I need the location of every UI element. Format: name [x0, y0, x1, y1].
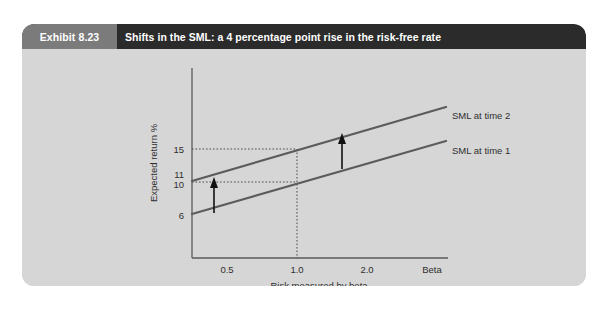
x-tick-label-0-5: 0.5 — [220, 264, 233, 275]
y-tick-label-15: 15 — [173, 144, 184, 155]
x-axis-title: Risk measured by beta — [270, 280, 368, 286]
y-tick-label-10: 10 — [173, 179, 184, 190]
sml-time-2-line — [192, 107, 446, 181]
series-label-sml-time-2: SML at time 2 — [452, 110, 510, 121]
x-axis-beta-label: Beta — [422, 264, 442, 275]
exhibit-number-label: Exhibit 8.23 — [40, 31, 100, 43]
exhibit-title: Shifts in the SML: a 4 percentage point … — [125, 24, 441, 49]
x-tick-label-1-0: 1.0 — [290, 264, 303, 275]
series-label-sml-time-1: SML at time 1 — [452, 145, 510, 156]
y-axis-title: Expected return % — [148, 123, 159, 202]
exhibit-number-tab: Exhibit 8.23 — [22, 24, 117, 49]
sml-time-1-line — [192, 141, 446, 214]
exhibit-card: Exhibit 8.23 Shifts in the SML: a 4 perc… — [22, 24, 586, 286]
exhibit-header: Exhibit 8.23 Shifts in the SML: a 4 perc… — [22, 24, 586, 49]
y-tick-label-6: 6 — [179, 210, 184, 221]
x-tick-label-2-0: 2.0 — [360, 264, 373, 275]
chart-body: 15 11 10 6 0.5 1.0 2.0 Beta SML at time … — [22, 49, 586, 286]
sml-chart: 15 11 10 6 0.5 1.0 2.0 Beta SML at time … — [22, 49, 586, 286]
